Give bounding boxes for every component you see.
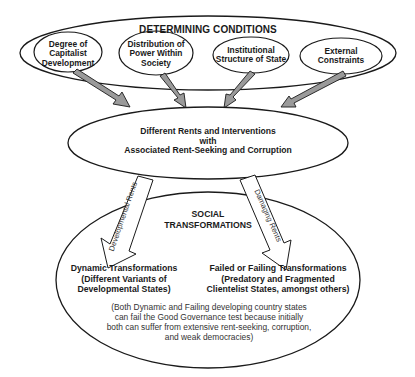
gray-arrows (73, 69, 346, 108)
node-power-distribution: Distribution of Power Within Society (118, 40, 194, 68)
diagram-canvas: DETERMINING CONDITIONS Degree of Capital… (0, 0, 415, 377)
arrow-capitalist-icon (73, 69, 130, 107)
node-capitalist-development: Degree of Capitalist Development (34, 40, 102, 68)
node-line: Society (118, 59, 194, 68)
outcome-line: Clientelist States, amongst others) (200, 284, 356, 295)
note-line: both can suffer from extensive rent-seek… (84, 322, 334, 332)
outcome-line: (Predatory and Fragmented (200, 274, 356, 285)
good-governance-note: (Both Dynamic and Failing developing cou… (84, 302, 334, 342)
node-institutional-structure: Institutional Structure of State (212, 46, 290, 65)
title-line: SOCIAL (158, 209, 258, 220)
failing-transformations-label: Failed or Failing Transformations (Preda… (200, 263, 356, 295)
note-line: can fail the Good Governance test becaus… (84, 312, 334, 322)
determining-conditions-title: DETERMINING CONDITIONS (130, 24, 286, 35)
note-line: (Both Dynamic and Failing developing cou… (84, 302, 334, 312)
outcome-line: Failed or Failing Transformations (200, 263, 356, 274)
node-line: Development (34, 59, 102, 68)
node-line: Constraints (305, 56, 377, 65)
note-line: and weak democracies) (84, 332, 334, 342)
outcome-line: (Different Variants of (64, 274, 184, 285)
node-external-constraints: External Constraints (305, 47, 377, 66)
social-transformations-title: SOCIAL TRANSFORMATIONS (158, 209, 258, 231)
title-line: TRANSFORMATIONS (158, 220, 258, 231)
middle-line: Associated Rent-Seeking and Corruption (108, 146, 308, 156)
arrow-power-icon (160, 73, 186, 108)
arrow-external-icon (281, 71, 346, 107)
outcome-line: Developmental States) (64, 284, 184, 295)
outcome-line: Dynamic Transformations (64, 263, 184, 274)
dynamic-transformations-label: Dynamic Transformations (Different Varia… (64, 263, 184, 295)
node-line: Structure of State (212, 55, 290, 64)
rents-interventions-label: Different Rents and Interventions with A… (108, 127, 308, 156)
